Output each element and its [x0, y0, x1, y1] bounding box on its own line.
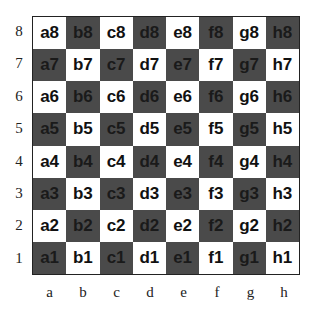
square-g7: g7: [233, 49, 266, 81]
square-d3: d3: [133, 178, 166, 210]
square-a4: a4: [33, 146, 66, 178]
rank-label: 2: [10, 217, 28, 234]
rank-label: 3: [10, 185, 28, 202]
square-f2: f2: [199, 210, 232, 242]
rank-label: 6: [10, 88, 28, 105]
square-g1: g1: [233, 242, 266, 274]
file-label: d: [134, 284, 167, 301]
square-e3: e3: [166, 178, 199, 210]
square-a5: a5: [33, 113, 66, 145]
square-e8: e8: [166, 17, 199, 49]
square-f5: f5: [199, 113, 232, 145]
rank-label: 7: [10, 55, 28, 72]
square-d5: d5: [133, 113, 166, 145]
square-d6: d6: [133, 81, 166, 113]
square-b3: b3: [66, 178, 99, 210]
square-b5: b5: [66, 113, 99, 145]
square-f4: f4: [199, 146, 232, 178]
square-g5: g5: [233, 113, 266, 145]
square-e4: e4: [166, 146, 199, 178]
square-c8: c8: [100, 17, 133, 49]
square-b6: b6: [66, 81, 99, 113]
square-d4: d4: [133, 146, 166, 178]
file-label: c: [100, 284, 133, 301]
square-h1: h1: [266, 242, 299, 274]
chess-board: a8b8c8d8e8f8g8h8a7b7c7d7e7f7g7h7a6b6c6d6…: [32, 16, 300, 275]
square-a7: a7: [33, 49, 66, 81]
square-c5: c5: [100, 113, 133, 145]
square-h4: h4: [266, 146, 299, 178]
square-b4: b4: [66, 146, 99, 178]
square-b1: b1: [66, 242, 99, 274]
rank-label: 4: [10, 153, 28, 170]
square-d1: d1: [133, 242, 166, 274]
square-g8: g8: [233, 17, 266, 49]
square-h3: h3: [266, 178, 299, 210]
square-g2: g2: [233, 210, 266, 242]
square-e6: e6: [166, 81, 199, 113]
square-e7: e7: [166, 49, 199, 81]
file-label: b: [67, 284, 100, 301]
rank-label: 1: [10, 250, 28, 267]
square-d7: d7: [133, 49, 166, 81]
square-h2: h2: [266, 210, 299, 242]
square-c2: c2: [100, 210, 133, 242]
square-c1: c1: [100, 242, 133, 274]
square-a6: a6: [33, 81, 66, 113]
square-a1: a1: [33, 242, 66, 274]
square-c4: c4: [100, 146, 133, 178]
square-e1: e1: [166, 242, 199, 274]
file-label: a: [33, 284, 66, 301]
square-f7: f7: [199, 49, 232, 81]
square-a3: a3: [33, 178, 66, 210]
square-h7: h7: [266, 49, 299, 81]
square-g3: g3: [233, 178, 266, 210]
square-a8: a8: [33, 17, 66, 49]
file-label: e: [167, 284, 200, 301]
square-b8: b8: [66, 17, 99, 49]
square-e2: e2: [166, 210, 199, 242]
square-f6: f6: [199, 81, 232, 113]
square-d8: d8: [133, 17, 166, 49]
square-f8: f8: [199, 17, 232, 49]
file-label: g: [234, 284, 267, 301]
square-f1: f1: [199, 242, 232, 274]
square-d2: d2: [133, 210, 166, 242]
square-g6: g6: [233, 81, 266, 113]
rank-label: 5: [10, 120, 28, 137]
square-b7: b7: [66, 49, 99, 81]
square-h6: h6: [266, 81, 299, 113]
square-e5: e5: [166, 113, 199, 145]
file-label: f: [201, 284, 234, 301]
square-c3: c3: [100, 178, 133, 210]
square-f3: f3: [199, 178, 232, 210]
file-label: h: [268, 284, 301, 301]
square-b2: b2: [66, 210, 99, 242]
square-g4: g4: [233, 146, 266, 178]
square-h8: h8: [266, 17, 299, 49]
square-c6: c6: [100, 81, 133, 113]
square-c7: c7: [100, 49, 133, 81]
rank-label: 8: [10, 23, 28, 40]
square-h5: h5: [266, 113, 299, 145]
square-a2: a2: [33, 210, 66, 242]
